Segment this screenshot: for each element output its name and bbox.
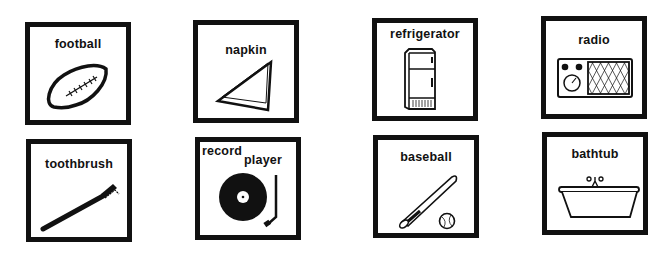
card-toothbrush[interactable]: toothbrush <box>26 139 132 242</box>
card-radio[interactable]: radio <box>541 16 647 119</box>
record-player-icon <box>200 142 296 235</box>
baseball-icon <box>378 140 474 233</box>
radio-icon <box>546 21 642 114</box>
card-refrigerator[interactable]: refrigerator <box>372 18 478 121</box>
toothbrush-icon <box>31 144 127 237</box>
napkin-icon <box>198 25 294 118</box>
card-record-player[interactable]: record player <box>195 137 301 240</box>
card-napkin[interactable]: napkin <box>193 20 299 123</box>
football-icon <box>30 27 126 120</box>
refrigerator-icon <box>377 23 473 116</box>
bathtub-icon <box>547 137 643 230</box>
card-baseball[interactable]: baseball <box>373 135 479 238</box>
card-bathtub[interactable]: bathtub <box>542 132 648 235</box>
card-football[interactable]: football <box>25 22 131 125</box>
